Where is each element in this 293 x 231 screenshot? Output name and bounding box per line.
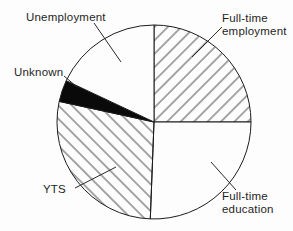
label-full-time-employment: Full-time employment — [222, 12, 288, 38]
label-unknown: Unknown — [14, 66, 63, 79]
pie-chart-figure: Unemployment Full-time employment Unknow… — [0, 0, 293, 231]
label-full-time-education: Full-time education — [222, 190, 288, 216]
pie-slice-full-time-employment — [154, 25, 251, 122]
label-yts: YTS — [43, 183, 66, 196]
label-unemployment: Unemployment — [26, 11, 106, 24]
